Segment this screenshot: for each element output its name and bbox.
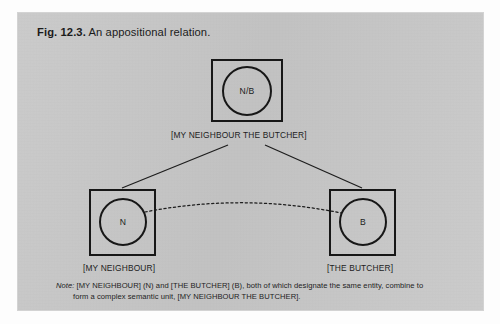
- node-label-butcher: [THE BUTCHER]: [327, 264, 393, 272]
- node-circle-composite: N/B: [222, 66, 272, 116]
- node-symbol-butcher: B: [360, 218, 366, 227]
- connector-composite-to-neighbour: [122, 145, 228, 188]
- node-label-composite: [MY NEIGHBOUR THE BUTCHER]: [171, 131, 307, 139]
- diagram-connectors: [0, 0, 500, 324]
- note-line-1: [MY NEIGHBOUR] (N) and [THE BUTCHER] (B)…: [77, 281, 424, 290]
- note-line-2: form a complex semantic unit, [MY NEIGHB…: [73, 292, 456, 303]
- figure-page: Fig. 12.3. An appositional relation. N/B…: [0, 0, 500, 324]
- node-label-neighbour: [MY NEIGHBOUR]: [83, 264, 155, 272]
- node-circle-neighbour: N: [99, 198, 147, 246]
- connector-composite-to-butcher: [265, 145, 362, 188]
- node-symbol-neighbour: N: [120, 218, 126, 227]
- connector-neighbour-to-butcher-dashed: [145, 203, 341, 213]
- figure-note: Note: [MY NEIGHBOUR] (N) and [THE BUTCHE…: [56, 281, 456, 302]
- node-symbol-composite: N/B: [240, 87, 255, 96]
- node-circle-butcher: B: [339, 198, 387, 246]
- note-label: Note:: [56, 281, 74, 290]
